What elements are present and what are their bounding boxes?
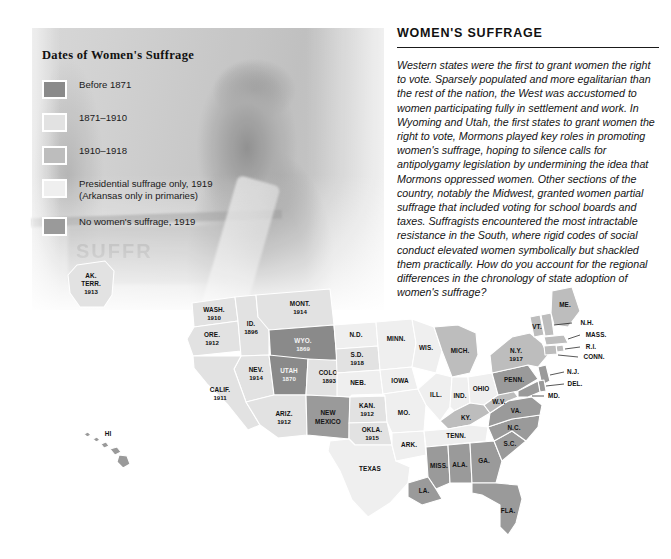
state-year-south-dakota: 1918 bbox=[350, 359, 364, 366]
state-label-missouri: MO. bbox=[398, 409, 410, 416]
legend-title: Dates of Women's Suffrage bbox=[42, 48, 242, 63]
map-legend: Dates of Women's Suffrage Before 1871 18… bbox=[42, 48, 242, 249]
state-year-california: 1911 bbox=[213, 394, 227, 401]
state-year-kansas: 1912 bbox=[360, 410, 374, 417]
state-label-south-dakota: S.D. bbox=[351, 351, 364, 358]
state-year-montana: 1914 bbox=[293, 308, 307, 315]
state-label-connecticut: CONN. bbox=[583, 353, 604, 360]
state-label-louisiana: LA. bbox=[419, 487, 430, 494]
state-label-delaware: DEL. bbox=[568, 380, 583, 387]
state-label-virginia: VA. bbox=[511, 407, 522, 414]
state-year-new-york: 1917 bbox=[509, 355, 523, 362]
state-label-rhode-island: R.I. bbox=[586, 343, 596, 350]
state-massachusetts[interactable] bbox=[544, 335, 568, 345]
state-label-pennsylvania: PENN. bbox=[504, 376, 524, 383]
legend-label-1910-1918: 1910–1918 bbox=[79, 145, 127, 157]
state-year-wyoming: 1869 bbox=[296, 345, 310, 352]
legend-swatch-no-suffrage bbox=[42, 217, 67, 236]
state-label-new-jersey: N.J. bbox=[567, 368, 579, 375]
state-label-oklahoma: OKLA. bbox=[362, 426, 383, 433]
state-label-wyoming: WYO. bbox=[294, 337, 312, 344]
legend-label-1871-1910: 1871–1910 bbox=[79, 112, 127, 124]
state-label-north-dakota: N.D. bbox=[349, 331, 362, 338]
state-minnesota[interactable] bbox=[376, 319, 416, 370]
state-label-wisconsin: WIS. bbox=[419, 344, 433, 351]
leader-line-del bbox=[546, 384, 564, 386]
state-year-idaho: 1896 bbox=[244, 328, 258, 335]
state-year-nevada: 1914 bbox=[249, 374, 263, 381]
leader-line-conn bbox=[558, 355, 578, 357]
state-label-tennessee: TENN. bbox=[446, 432, 466, 439]
state-label-iowa: IOWA bbox=[391, 377, 409, 384]
state-label-georgia: GA. bbox=[478, 457, 490, 464]
state-label-alaska-2: TERR. bbox=[81, 280, 101, 287]
state-label-vermont: VT. bbox=[532, 323, 542, 330]
state-label-washington: WASH. bbox=[203, 306, 225, 313]
legend-label-before-1871: Before 1871 bbox=[79, 79, 131, 91]
state-label-alabama: ALA. bbox=[452, 461, 467, 468]
state-label-minnesota: MINN. bbox=[387, 335, 406, 342]
legend-label-no-suffrage: No women's suffrage, 1919 bbox=[79, 216, 195, 228]
legend-swatch-1871-1910 bbox=[42, 113, 67, 132]
state-label-ohio: OHIO bbox=[473, 385, 490, 392]
legend-swatch-1910-1918 bbox=[42, 146, 67, 165]
state-label-hawaii: HI bbox=[105, 430, 112, 437]
legend-item-1910-1918: 1910–1918 bbox=[42, 145, 242, 165]
state-label-west-virginia: W.V. bbox=[492, 398, 505, 405]
state-label-florida: FLA. bbox=[501, 507, 516, 514]
state-label-nevada: NEV. bbox=[249, 366, 264, 373]
legend-swatch-before-1871 bbox=[42, 80, 67, 99]
state-label-indiana: IND. bbox=[453, 392, 466, 399]
state-label-new-mexico-1: NEW bbox=[320, 409, 336, 416]
state-label-kansas: KAN. bbox=[359, 402, 375, 409]
state-year-alaska: 1913 bbox=[84, 288, 98, 295]
state-label-michigan: MICH. bbox=[451, 347, 470, 354]
state-label-oregon: ORE. bbox=[204, 331, 220, 338]
state-label-new-mexico-2: MEXICO bbox=[315, 418, 341, 425]
state-label-arizona: ARIZ. bbox=[275, 410, 292, 417]
state-year-oregon: 1912 bbox=[205, 339, 219, 346]
leader-line-ri bbox=[565, 347, 580, 349]
state-label-kentucky: KY. bbox=[461, 414, 471, 421]
state-label-new-hampshire: N.H. bbox=[580, 319, 593, 326]
panel-divider bbox=[397, 47, 659, 48]
leader-line-nj bbox=[550, 372, 564, 375]
state-year-oklahoma: 1915 bbox=[365, 434, 379, 441]
state-label-south-carolina: S.C. bbox=[504, 440, 517, 447]
state-label-north-carolina: N.C. bbox=[507, 424, 520, 431]
legend-item-presidential-suffrage: Presidential suffrage only, 1919 (Arkans… bbox=[42, 178, 242, 203]
state-new-mexico[interactable] bbox=[306, 395, 350, 439]
state-label-massachusetts: MASS. bbox=[586, 331, 607, 338]
legend-item-no-suffrage: No women's suffrage, 1919 bbox=[42, 216, 242, 236]
state-label-utah: UTAH bbox=[280, 367, 298, 374]
us-suffrage-map: AK. TERR. 1913 HI WASH. 1910 ORE. 1912 I… bbox=[60, 255, 660, 555]
state-label-arkansas: ARK. bbox=[401, 441, 417, 448]
legend-swatch-presidential-suffrage bbox=[42, 179, 67, 198]
state-year-washington: 1910 bbox=[207, 314, 221, 321]
state-label-new-york: N.Y. bbox=[510, 347, 522, 354]
state-year-utah: 1870 bbox=[282, 375, 296, 382]
legend-item-1871-1910: 1871–1910 bbox=[42, 112, 242, 132]
state-connecticut[interactable] bbox=[544, 345, 557, 355]
figure-page: SUFFR Dates of Women's Suffrage Before 1… bbox=[0, 0, 671, 559]
state-label-maine: ME. bbox=[559, 301, 571, 308]
state-label-montana: MONT. bbox=[290, 300, 311, 307]
state-label-illinois: ILL. bbox=[430, 391, 442, 398]
state-label-texas: TEXAS bbox=[359, 465, 381, 472]
state-label-alaska-1: AK. bbox=[85, 272, 96, 279]
state-label-mississippi: MISS. bbox=[430, 462, 448, 469]
state-year-arizona: 1912 bbox=[277, 418, 291, 425]
state-hawaii[interactable] bbox=[84, 432, 130, 468]
legend-item-before-1871: Before 1871 bbox=[42, 79, 242, 99]
state-label-idaho: ID. bbox=[247, 320, 256, 327]
legend-label-presidential-suffrage: Presidential suffrage only, 1919 (Arkans… bbox=[79, 178, 219, 203]
leader-line-mass bbox=[568, 335, 580, 339]
state-label-maryland: MD. bbox=[548, 392, 560, 399]
state-label-nebraska: NEB. bbox=[350, 379, 366, 386]
state-label-california: CALIF. bbox=[210, 386, 231, 393]
panel-title: WOMEN'S SUFFRAGE bbox=[397, 26, 659, 40]
state-year-colorado: 1893 bbox=[322, 377, 336, 384]
